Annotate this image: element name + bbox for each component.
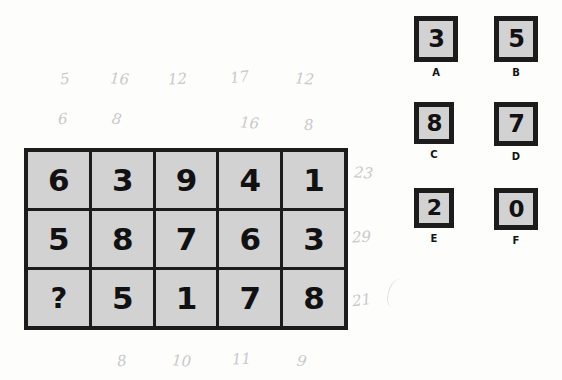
answer-options-panel: 3 A 5 B 8 C 7 D 2 E 0 F bbox=[408, 14, 554, 272]
grid-cell-r2c4: 6 bbox=[219, 211, 280, 267]
pencil-note-right-row1: 23 bbox=[353, 163, 373, 182]
answer-option-e[interactable]: 2 E bbox=[414, 188, 454, 244]
pencil-note-right-row2: 29 bbox=[352, 228, 372, 247]
grid-cell-r1c2: 3 bbox=[92, 152, 153, 208]
pencil-note-bottom-col2: 10 bbox=[171, 351, 191, 370]
pencil-note-bottom-col3: 11 bbox=[232, 350, 252, 369]
grid-cell-r3c2: 5 bbox=[92, 270, 153, 326]
answer-option-c-label: C bbox=[430, 149, 437, 160]
answer-option-c[interactable]: 8 C bbox=[414, 102, 454, 160]
number-grid: 6 3 9 4 1 5 8 7 6 3 ? 5 1 7 8 bbox=[24, 148, 348, 330]
grid-cell-r3c5: 8 bbox=[283, 270, 344, 326]
grid-cell-r1c4: 4 bbox=[219, 152, 280, 208]
grid-cell-r3c4: 7 bbox=[219, 270, 280, 326]
answer-option-f-value[interactable]: 0 bbox=[494, 188, 538, 230]
pencil-note-top2-col5: 8 bbox=[304, 116, 314, 134]
pencil-note-top1-col4: 17 bbox=[229, 67, 250, 87]
answer-option-c-value[interactable]: 8 bbox=[414, 102, 454, 144]
pencil-note-top1-col1: 5 bbox=[59, 69, 71, 88]
grid-cell-r2c5: 3 bbox=[283, 211, 344, 267]
grid-cell-r1c5: 1 bbox=[283, 152, 344, 208]
pencil-note-top1-col2: 16 bbox=[109, 69, 129, 88]
grid-cell-r2c1: 5 bbox=[28, 211, 89, 267]
pencil-note-top1-col3: 12 bbox=[168, 70, 188, 89]
pencil-note-top2-col4: 16 bbox=[239, 113, 259, 132]
grid-cell-r2c3: 7 bbox=[156, 211, 217, 267]
answer-option-e-value[interactable]: 2 bbox=[414, 188, 454, 228]
answer-option-a-value[interactable]: 3 bbox=[414, 16, 458, 62]
answer-option-b-label: B bbox=[512, 67, 520, 78]
grid-cell-r1c1: 6 bbox=[28, 152, 89, 208]
answer-option-b-value[interactable]: 5 bbox=[494, 16, 538, 62]
answer-option-d[interactable]: 7 D bbox=[494, 102, 538, 162]
pencil-note-bottom-col1: 8 bbox=[116, 351, 128, 370]
answer-option-f[interactable]: 0 F bbox=[494, 188, 538, 246]
answer-option-a[interactable]: 3 A bbox=[414, 16, 458, 78]
answer-option-a-label: A bbox=[432, 67, 440, 78]
grid-cell-r1c3: 9 bbox=[156, 152, 217, 208]
answer-option-d-label: D bbox=[512, 151, 520, 162]
pencil-note-right-row3: 21 bbox=[351, 290, 372, 310]
pencil-note-top2-col1: 6 bbox=[58, 110, 68, 128]
answer-option-e-label: E bbox=[431, 233, 438, 244]
answer-option-d-value[interactable]: 7 bbox=[494, 102, 538, 146]
grid-cell-r3c1-missing: ? bbox=[28, 270, 89, 326]
grid-cell-r2c2: 8 bbox=[92, 211, 153, 267]
answer-option-b[interactable]: 5 B bbox=[494, 16, 538, 78]
grid-cell-r3c3: 1 bbox=[156, 270, 217, 326]
answer-option-f-label: F bbox=[513, 235, 520, 246]
pencil-note-top1-col5: 12 bbox=[294, 69, 314, 88]
